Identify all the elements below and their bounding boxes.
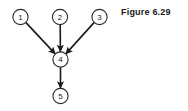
graph-node-1: 1 [13,9,28,24]
node-label-5: 5 [58,92,63,101]
node-label-4: 4 [58,55,63,64]
directed-graph-diagram: 12345 [0,0,188,111]
node-label-2: 2 [58,13,63,22]
edge-3-to-4 [66,23,94,54]
graph-node-2: 2 [52,9,67,24]
node-label-3: 3 [97,13,102,22]
graph-node-3: 3 [92,9,107,24]
graph-node-5: 5 [53,88,68,103]
node-label-1: 1 [18,13,23,22]
graph-node-4: 4 [53,52,68,67]
edge-1-to-4 [26,23,55,54]
figure-page: Figure 6.29 12345 [0,0,188,111]
